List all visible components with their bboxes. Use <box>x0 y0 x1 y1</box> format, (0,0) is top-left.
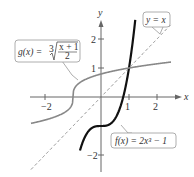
callout-f-pointer <box>121 125 132 133</box>
callout-identity: y = x <box>143 12 170 34</box>
callout-identity-label: y = x <box>145 15 166 25</box>
callout-g: g(x) = 3 x + 1 2 <box>15 40 80 80</box>
y-tick-label: 2 <box>91 34 96 45</box>
x-tick-label: 1 <box>125 101 130 112</box>
callout-identity-pointer <box>152 27 163 34</box>
y-axis-arrow <box>99 20 104 27</box>
y-tick-label: 1 <box>91 63 96 74</box>
y-axis-label: y <box>97 7 103 18</box>
x-axis-arrow <box>175 95 182 100</box>
chart: x y −21221−2 g(x) = 3 x + 1 2 f(x) = 2x³… <box>0 0 194 177</box>
callout-g-radical-index: 3 <box>49 44 54 54</box>
callout-f-label: f(x) = 2x³ − 1 <box>115 136 167 147</box>
callout-f: f(x) = 2x³ − 1 <box>111 125 176 148</box>
x-tick-label: −2 <box>41 101 52 112</box>
callout-g-prefix: g(x) = <box>18 47 42 58</box>
curve-f <box>80 20 135 151</box>
x-axis-label: x <box>183 91 189 102</box>
y-tick-label: −2 <box>87 150 98 161</box>
callout-g-denominator: 2 <box>65 51 70 61</box>
callout-g-pointer <box>62 61 78 80</box>
x-tick-label: 2 <box>153 101 158 112</box>
